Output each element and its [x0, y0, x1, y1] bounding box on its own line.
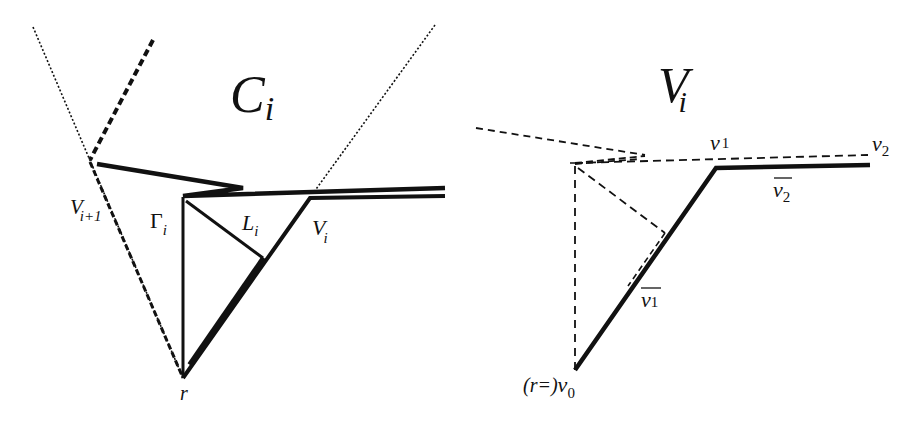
- label-r: r: [180, 382, 188, 404]
- label-v-i-title: Vi: [658, 57, 694, 118]
- label-c-i: Ci: [230, 66, 274, 127]
- cone-right-boundary: [314, 25, 435, 192]
- dashed-left-ray: [476, 128, 645, 155]
- right-panel: Vi v1 v2 v2 v1 (r=)v0: [476, 57, 889, 401]
- v-next-thick-dashed-lower: [90, 162, 183, 378]
- label-l-i: Li: [241, 210, 258, 239]
- v-path: [575, 165, 870, 370]
- overlap-segment: [190, 258, 264, 365]
- label-gamma-i: Γi: [150, 208, 167, 238]
- zigzag-path: [97, 164, 445, 196]
- dashed-parallel-v1bar: [628, 233, 665, 286]
- label-v2: v2: [872, 131, 889, 159]
- svg-text:v2: v2: [773, 177, 790, 205]
- diagram-canvas: Ci Vi+1 Γi Li Vi r Vi v1 v2 v2: [0, 0, 920, 437]
- label-v2bar: v2: [773, 177, 792, 205]
- dashed-to-v1bar: [578, 168, 665, 233]
- label-v0: (r=)v0: [523, 372, 575, 401]
- label-v-i: Vi: [312, 215, 328, 246]
- v-next-thick-dashed-upper: [90, 40, 153, 160]
- label-v-next: Vi+1: [70, 195, 102, 224]
- label-v1: v1: [710, 130, 729, 155]
- svg-text:v1: v1: [641, 287, 658, 312]
- label-v1bar: v1: [641, 287, 661, 312]
- left-panel: Ci Vi+1 Γi Li Vi r: [33, 25, 445, 404]
- cone-left-boundary: [33, 27, 183, 378]
